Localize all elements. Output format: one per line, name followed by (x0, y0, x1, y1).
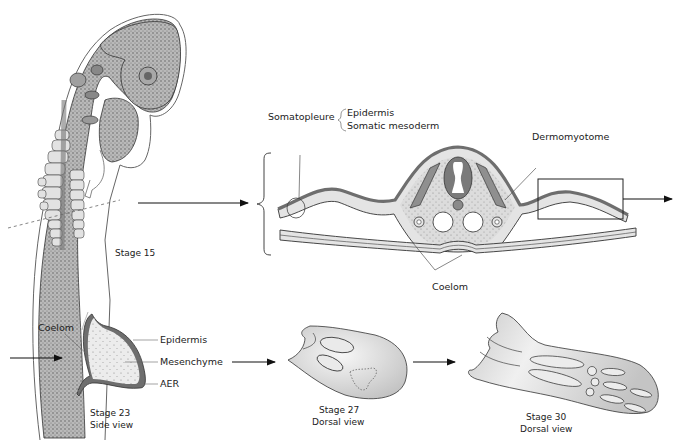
label-somatopleure: Somatopleure (268, 111, 335, 122)
label-coelom-section: Coelom (432, 281, 468, 292)
limb-development-figure: Stage 15 (0, 0, 682, 448)
stage27-caption-line2: Dorsal view (312, 417, 364, 427)
label-aer: AER (160, 378, 180, 389)
label-dermomyotome: Dermomyotome (532, 131, 609, 142)
stage27-caption-line1: Stage 27 (319, 405, 359, 415)
stage30-caption-line2: Dorsal view (520, 424, 572, 434)
stage30-caption-line1: Stage 30 (526, 412, 567, 422)
stage30-limb (468, 313, 658, 414)
brace-icon (257, 153, 271, 255)
cross-section (257, 147, 672, 270)
stage27-limb (288, 326, 407, 399)
label-somatic-mesoderm: Somatic mesoderm (347, 120, 439, 131)
label-mesenchyme: Mesenchyme (160, 356, 223, 367)
stage23-caption-line1: Stage 23 (90, 408, 130, 418)
label-epidermis-section: Epidermis (347, 107, 394, 118)
small-brace-icon (338, 109, 346, 131)
stage23-caption-line2: Side view (90, 420, 133, 430)
label-coelom-stage23: Coelom (38, 322, 74, 333)
label-epidermis-stage23: Epidermis (160, 334, 207, 345)
stage15-caption: Stage 15 (115, 248, 155, 258)
